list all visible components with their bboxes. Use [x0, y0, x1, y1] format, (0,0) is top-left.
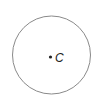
center-label: C: [55, 51, 64, 65]
center-point: [49, 55, 52, 58]
circle-diagram: C: [0, 0, 96, 100]
circle-outline: [13, 16, 91, 94]
